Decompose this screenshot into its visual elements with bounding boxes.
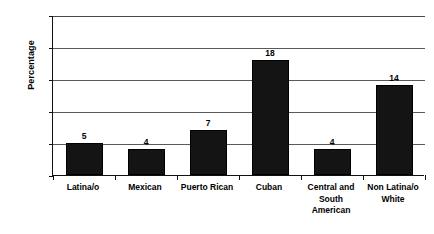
bar-value-label: 14	[389, 73, 398, 83]
plot-area: 54718414	[52, 16, 424, 176]
bar-slot: 5	[53, 16, 115, 175]
x-axis-label-line: American	[294, 205, 368, 217]
bar[interactable]: 14	[376, 85, 413, 175]
bar-series: 54718414	[53, 16, 424, 175]
x-axis-labels: Latina/oMexicanPuerto RicanCubanCentral …	[52, 182, 424, 232]
bar-slot: 18	[239, 16, 301, 175]
x-tick-mark	[301, 175, 302, 180]
bar-slot: 4	[301, 16, 363, 175]
bar-value-label: 18	[265, 48, 274, 58]
bar-chart: Percentage 54718414 0510152025 Latina/oM…	[0, 0, 434, 234]
x-tick-mark	[425, 175, 426, 180]
x-tick-mark	[53, 175, 54, 180]
bar-value-label: 4	[330, 137, 335, 147]
bar[interactable]: 18	[252, 60, 289, 175]
x-axis-label-line: Non Latina/o	[356, 182, 430, 194]
x-tick-mark	[115, 175, 116, 180]
bar-value-label: 5	[82, 131, 87, 141]
y-axis-title: Percentage	[26, 15, 40, 115]
bar-value-label: 7	[206, 118, 211, 128]
bar[interactable]: 5	[66, 143, 103, 175]
bar-slot: 7	[177, 16, 239, 175]
bar[interactable]: 4	[128, 149, 165, 175]
x-tick-mark	[177, 175, 178, 180]
x-axis-label: Non Latina/oWhite	[356, 182, 430, 205]
x-tick-mark	[363, 175, 364, 180]
bar-value-label: 4	[144, 137, 149, 147]
bar-slot: 14	[363, 16, 425, 175]
bar[interactable]: 4	[314, 149, 351, 175]
x-axis-label-line: White	[356, 194, 430, 206]
bar[interactable]: 7	[190, 130, 227, 175]
bar-slot: 4	[115, 16, 177, 175]
x-tick-mark	[239, 175, 240, 180]
